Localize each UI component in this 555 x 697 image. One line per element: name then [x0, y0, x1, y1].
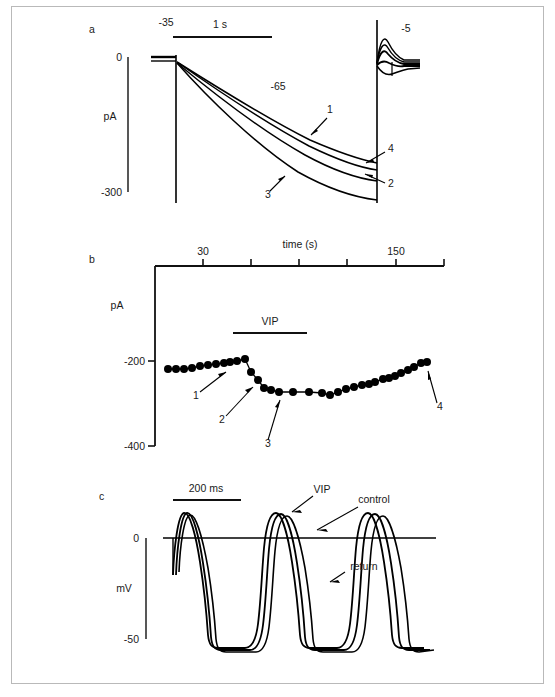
- panel-c-y-tick-0: 0: [133, 532, 139, 544]
- data-point: [358, 381, 366, 389]
- panel-a-tail-currents: [377, 39, 420, 76]
- panel-b-x-axis-title: time (s): [283, 238, 318, 250]
- panel-a-scale-bar-label: 1 s: [213, 18, 227, 30]
- panel-c-label-control: control: [317, 493, 390, 532]
- panel-b-drug-bar: VIP: [233, 315, 307, 333]
- panel-a-y-axis: 0 -300 pA: [101, 51, 128, 198]
- data-point: [212, 360, 220, 368]
- data-point: [289, 388, 297, 396]
- panel-b: b 30 150 time (s) -200 -400: [89, 238, 444, 452]
- panel-c-y-axis-label: mV: [116, 582, 132, 594]
- panel-a-trace-label-4: 4: [388, 142, 394, 154]
- panel-c-trace-label-vip: VIP: [314, 483, 331, 495]
- data-point: [180, 365, 188, 373]
- panel-c-y-tick-50: -50: [124, 633, 139, 645]
- panel-c-trace-label-return: return: [350, 560, 378, 572]
- panel-a-step-label: -65: [270, 80, 285, 92]
- panel-c-trace-label-control: control: [358, 493, 390, 505]
- panel-b-letter: b: [89, 253, 95, 265]
- data-point: [410, 363, 418, 371]
- figure-canvas: a -35 -65 -5 1 s 0 -300 pA: [0, 0, 555, 697]
- data-point: [196, 362, 204, 370]
- panel-c-letter: c: [99, 490, 104, 502]
- panel-b-drug-bar-label: VIP: [262, 315, 279, 327]
- panel-c-scale-bar: 200 ms: [173, 482, 241, 500]
- panel-c-trace-return: [179, 515, 434, 652]
- data-point: [305, 388, 313, 396]
- panel-a-trace-label-1: 1: [327, 103, 333, 115]
- panel-b-y-tick-200: -200: [124, 355, 145, 367]
- panel-a-label-4: 4: [366, 142, 394, 163]
- panel-b-y-tick-400: -400: [124, 440, 145, 452]
- data-point: [204, 361, 212, 369]
- data-point: [334, 388, 342, 396]
- data-point: [275, 388, 283, 396]
- data-point: [397, 369, 405, 377]
- panel-b-point-label-1: 1: [193, 389, 199, 401]
- panel-b-label-2: 2: [219, 387, 253, 425]
- data-point: [172, 365, 180, 373]
- data-point: [423, 358, 431, 366]
- data-point: [350, 383, 358, 391]
- panel-a-y-axis-label: pA: [104, 110, 117, 122]
- panel-a-trace-label-2: 2: [388, 177, 394, 189]
- panel-a-label-1: 1: [311, 103, 333, 135]
- panel-a-y-tick-300: -300: [101, 186, 122, 198]
- panel-a-letter: a: [89, 23, 95, 35]
- panel-b-label-3: 3: [265, 400, 280, 449]
- data-point: [342, 385, 350, 393]
- panel-c: c 200 ms 0 -50 mV: [99, 482, 436, 652]
- panel-a-tail-label: -5: [401, 22, 410, 34]
- data-point: [326, 391, 334, 399]
- panel-b-y-axis-label: pA: [111, 299, 124, 311]
- panel-b-x-tick-150: 150: [387, 245, 405, 257]
- data-point: [233, 357, 241, 365]
- panel-c-scale-bar-label: 200 ms: [189, 482, 223, 494]
- panel-c-label-vip: VIP: [292, 483, 330, 513]
- data-point: [267, 386, 275, 394]
- data-point: [260, 384, 268, 392]
- panel-a-label-2: 2: [365, 174, 394, 189]
- panel-a-label-3: 3: [265, 176, 285, 200]
- panel-a-trace-label-3: 3: [265, 188, 271, 200]
- panel-c-y-axis: 0 -50 mV: [116, 532, 146, 645]
- data-point: [188, 364, 196, 372]
- panel-a-baseline-step: [151, 57, 176, 61]
- data-point: [371, 378, 379, 386]
- panel-b-point-label-4: 4: [437, 400, 443, 412]
- data-point: [241, 355, 249, 363]
- panel-b-x-tick-30: 30: [197, 245, 209, 257]
- data-point: [318, 389, 326, 397]
- panel-b-x-axis: 30 150 time (s): [155, 238, 444, 266]
- panel-a: a -35 -65 -5 1 s 0 -300 pA: [89, 16, 420, 203]
- data-point: [254, 376, 262, 384]
- panel-b-y-axis: -200 -400 pA: [111, 266, 155, 452]
- data-point: [247, 368, 255, 376]
- figure-root: a -35 -65 -5 1 s 0 -300 pA: [0, 0, 555, 697]
- panel-a-y-tick-0: 0: [116, 51, 122, 63]
- panel-b-label-1: 1: [193, 372, 226, 401]
- panel-a-scale-bar: 1 s: [173, 18, 272, 37]
- panel-b-point-label-2: 2: [219, 413, 225, 425]
- data-point: [164, 365, 172, 373]
- panel-a-holding-label: -35: [158, 16, 173, 28]
- data-point: [226, 358, 234, 366]
- panel-b-label-4: 4: [428, 371, 443, 412]
- panel-a-trace-1: [177, 62, 377, 163]
